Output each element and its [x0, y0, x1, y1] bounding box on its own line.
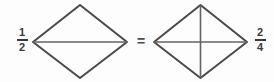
fraction-denominator: 2: [19, 42, 25, 53]
fraction-numerator: 2: [257, 27, 263, 38]
equivalent-fractions-diagram: 1 2 = 2 4: [0, 0, 274, 82]
diamond-halves-shape: [31, 3, 129, 80]
fraction-numerator: 1: [19, 27, 25, 38]
fraction-denominator: 4: [257, 42, 263, 53]
equals-sign: =: [132, 34, 150, 48]
diamond-quarters-shape: [152, 3, 249, 80]
fraction-two-fourths: 2 4: [252, 27, 268, 53]
fraction-one-half: 1 2: [14, 27, 30, 53]
